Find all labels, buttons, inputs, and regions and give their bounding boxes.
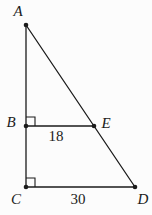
point-label-E: E <box>100 115 110 131</box>
point-label-D: D <box>137 191 149 207</box>
diagram-canvas: ABCDE1830 <box>0 0 152 215</box>
point-A <box>24 23 29 28</box>
point-D <box>133 185 138 190</box>
segment-AD <box>26 25 135 187</box>
point-B <box>24 124 29 129</box>
point-E <box>92 124 97 129</box>
geometry-diagram: ABCDE1830 <box>0 0 152 215</box>
point-label-B: B <box>6 114 15 130</box>
measurement-BE: 18 <box>49 128 64 144</box>
point-label-A: A <box>12 3 23 19</box>
measurement-CD: 30 <box>71 191 86 207</box>
point-label-C: C <box>11 191 22 207</box>
point-C <box>24 185 29 190</box>
